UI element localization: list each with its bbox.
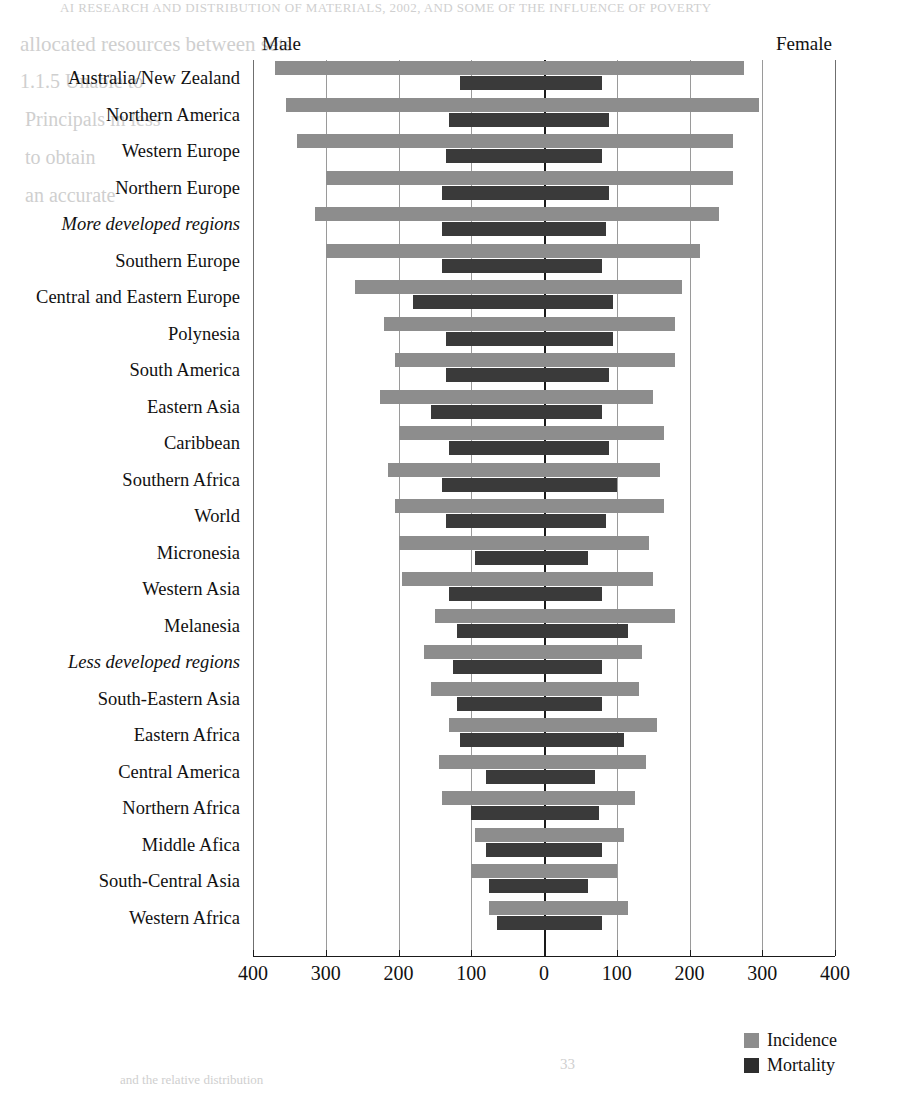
- bar-incidence-male: [395, 499, 544, 513]
- chart-legend: IncidenceMortality: [744, 1030, 837, 1080]
- bar-mortality-male: [449, 441, 544, 455]
- bar-row: [253, 900, 835, 937]
- bar-incidence-female: [544, 682, 639, 696]
- bar-row: [253, 389, 835, 426]
- bar-mortality-male: [431, 405, 544, 419]
- x-axis-line: [253, 956, 835, 957]
- bar-mortality-male: [413, 295, 544, 309]
- bar-incidence-female: [544, 61, 744, 75]
- bar-incidence-female: [544, 134, 733, 148]
- bar-incidence-female: [544, 390, 653, 404]
- bar-incidence-male: [399, 536, 545, 550]
- category-label: Central and Eastern Europe: [0, 279, 246, 316]
- bar-row: [253, 790, 835, 827]
- bar-incidence-male: [326, 171, 544, 185]
- bar-row: [253, 60, 835, 97]
- bar-row: [253, 754, 835, 791]
- bar-incidence-male: [286, 98, 544, 112]
- bar-mortality-male: [442, 478, 544, 492]
- plot-area: [253, 60, 835, 956]
- bar-row: [253, 279, 835, 316]
- bar-mortality-male: [457, 697, 544, 711]
- bar-incidence-male: [449, 718, 544, 732]
- axis-tick-label: 100: [602, 962, 632, 985]
- bar-incidence-female: [544, 536, 649, 550]
- bar-incidence-male: [297, 134, 544, 148]
- bar-row: [253, 316, 835, 353]
- bar-mortality-male: [486, 843, 544, 857]
- axis-tick-400: [835, 950, 836, 956]
- category-label: South-Eastern Asia: [0, 681, 246, 718]
- bar-incidence-female: [544, 207, 719, 221]
- bar-mortality-male: [471, 806, 544, 820]
- bar-mortality-male: [457, 624, 544, 638]
- bar-incidence-male: [489, 901, 544, 915]
- bar-incidence-male: [275, 61, 544, 75]
- category-label: World: [0, 498, 246, 535]
- bar-mortality-female: [544, 697, 602, 711]
- category-label: Northern Africa: [0, 790, 246, 827]
- category-label: Western Asia: [0, 571, 246, 608]
- bar-mortality-female: [544, 405, 602, 419]
- bar-mortality-female: [544, 660, 602, 674]
- axis-tick--300: [326, 950, 327, 956]
- bar-incidence-male: [424, 645, 544, 659]
- legend-item-incidence: Incidence: [744, 1030, 837, 1051]
- bar-incidence-male: [388, 463, 544, 477]
- legend-swatch-mortality: [744, 1058, 759, 1073]
- bar-incidence-male: [431, 682, 544, 696]
- bar-mortality-male: [460, 733, 544, 747]
- bar-mortality-female: [544, 551, 588, 565]
- bar-mortality-female: [544, 478, 617, 492]
- category-label: Polynesia: [0, 316, 246, 353]
- bar-incidence-male: [402, 572, 544, 586]
- category-label: Caribbean: [0, 425, 246, 462]
- axis-tick--400: [253, 950, 254, 956]
- category-label: Australia/New Zealand: [0, 60, 246, 97]
- bar-mortality-male: [453, 660, 544, 674]
- bar-incidence-male: [475, 828, 544, 842]
- legend-item-mortality: Mortality: [744, 1055, 837, 1076]
- bar-incidence-female: [544, 244, 700, 258]
- category-label: Western Europe: [0, 133, 246, 170]
- bar-row: [253, 425, 835, 462]
- bar-row: [253, 571, 835, 608]
- axis-tick-200: [690, 950, 691, 956]
- bar-mortality-male: [446, 332, 544, 346]
- bar-row: [253, 97, 835, 134]
- bar-mortality-female: [544, 76, 602, 90]
- bar-mortality-male: [489, 879, 544, 893]
- bar-mortality-male: [446, 514, 544, 528]
- bar-incidence-female: [544, 317, 675, 331]
- category-label: South-Central Asia: [0, 863, 246, 900]
- bar-row: [253, 608, 835, 645]
- bar-row: [253, 206, 835, 243]
- bar-mortality-female: [544, 624, 628, 638]
- axis-tick-label: 300: [311, 962, 341, 985]
- category-label: Northern America: [0, 97, 246, 134]
- bar-mortality-male: [497, 916, 544, 930]
- axis-tick--100: [471, 950, 472, 956]
- bar-mortality-male: [449, 113, 544, 127]
- bar-row: [253, 498, 835, 535]
- category-label: Micronesia: [0, 535, 246, 572]
- axis-tick-0: [544, 950, 545, 956]
- axis-tick-label: 400: [820, 962, 850, 985]
- axis-tick-label: 200: [675, 962, 705, 985]
- bar-mortality-female: [544, 113, 609, 127]
- bar-incidence-female: [544, 864, 617, 878]
- axis-tick--200: [399, 950, 400, 956]
- bar-row: [253, 644, 835, 681]
- bar-mortality-male: [475, 551, 544, 565]
- category-label: South America: [0, 352, 246, 389]
- bar-mortality-female: [544, 149, 602, 163]
- population-pyramid-chart: Male Female Australia/New ZealandNorther…: [0, 0, 897, 1096]
- category-label: Middle Afica: [0, 827, 246, 864]
- category-label: Northern Europe: [0, 170, 246, 207]
- bar-mortality-female: [544, 806, 599, 820]
- bar-mortality-female: [544, 332, 613, 346]
- bar-mortality-female: [544, 368, 609, 382]
- bar-incidence-male: [471, 864, 544, 878]
- bar-mortality-female: [544, 186, 609, 200]
- bar-incidence-male: [395, 353, 544, 367]
